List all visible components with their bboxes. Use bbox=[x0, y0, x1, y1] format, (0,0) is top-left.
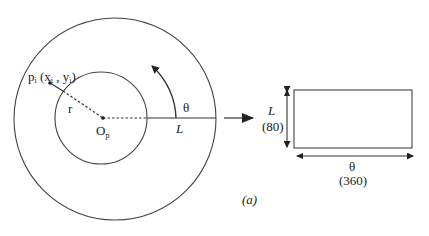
unwrapped-rectangle bbox=[294, 90, 412, 148]
angle-arc-arrow bbox=[152, 66, 176, 118]
caption: (a) bbox=[242, 192, 257, 207]
width-arrow-left-head bbox=[296, 153, 303, 159]
point-pi-label: pi (xi , yi) bbox=[28, 69, 76, 85]
rect-width-label: θ bbox=[349, 159, 355, 174]
radius-label: r bbox=[68, 101, 73, 116]
rect-width-value: (360) bbox=[339, 173, 367, 188]
angle-label: θ bbox=[183, 100, 189, 115]
polar-transform-diagram: pi (xi , yi) r Op θ L L (80) θ (360) (a) bbox=[0, 0, 429, 236]
inner-circle bbox=[55, 72, 147, 164]
outer-circle bbox=[14, 18, 216, 220]
center-label: Op bbox=[96, 123, 109, 140]
rect-height-value: (80) bbox=[262, 119, 284, 134]
length-label: L bbox=[175, 121, 183, 136]
rect-height-label: L bbox=[267, 103, 275, 118]
height-arrow-top-head bbox=[284, 89, 290, 96]
